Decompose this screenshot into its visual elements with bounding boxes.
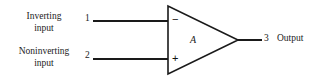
output-label: Output [277,33,303,44]
plus-sign-icon: + [172,53,178,64]
inverting-input-label: Inverting input [8,11,80,34]
pin-number-1: 1 [85,13,90,23]
pin-number-3: 3 [264,33,269,43]
amplifier-triangle [168,6,238,74]
inverting-input-label-line2: input [34,23,54,33]
noninverting-input-label-line2: input [34,58,54,68]
pin-number-2: 2 [85,50,90,60]
noninverting-input-label-line1: Noninverting [19,46,70,56]
gain-label: A [190,34,196,45]
inverting-input-label-line1: Inverting [27,11,62,21]
noninverting-input-label: Noninverting input [4,46,84,69]
op-amp-diagram: Inverting input Noninverting input 1 2 3… [0,0,321,79]
minus-sign-icon: − [172,14,178,25]
